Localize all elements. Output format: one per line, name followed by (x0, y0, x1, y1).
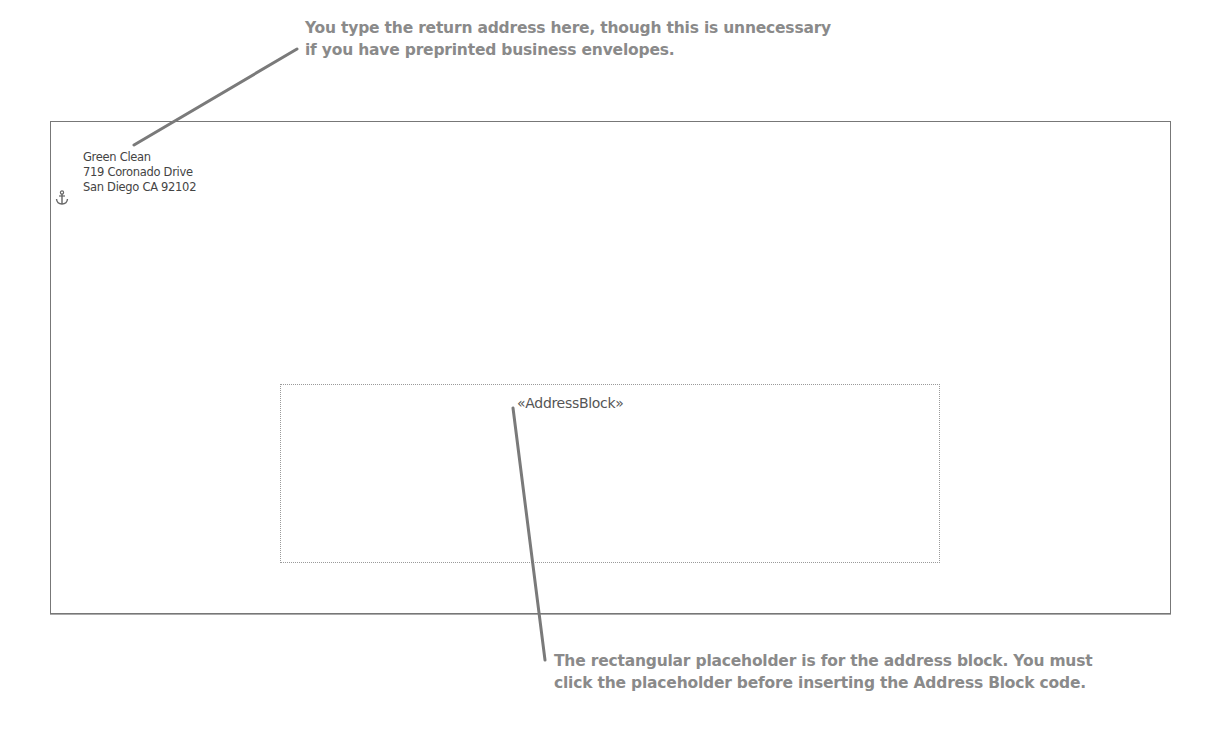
return-address-street: 719 Coronado Drive (83, 165, 196, 180)
callout-line: if you have preprinted business envelope… (305, 39, 925, 61)
address-block-field[interactable]: «AddressBlock» (517, 395, 624, 411)
callout-line: click the placeholder before inserting t… (554, 672, 1194, 694)
return-address-name: Green Clean (83, 150, 196, 165)
anchor-icon[interactable] (55, 190, 69, 206)
callout-line: You type the return address here, though… (305, 17, 925, 39)
callout-line: The rectangular placeholder is for the a… (554, 650, 1194, 672)
return-address-city: San Diego CA 92102 (83, 180, 196, 195)
return-address-callout: You type the return address here, though… (305, 17, 925, 61)
address-block-callout: The rectangular placeholder is for the a… (554, 650, 1194, 694)
return-address[interactable]: Green Clean 719 Coronado Drive San Diego… (83, 150, 196, 195)
